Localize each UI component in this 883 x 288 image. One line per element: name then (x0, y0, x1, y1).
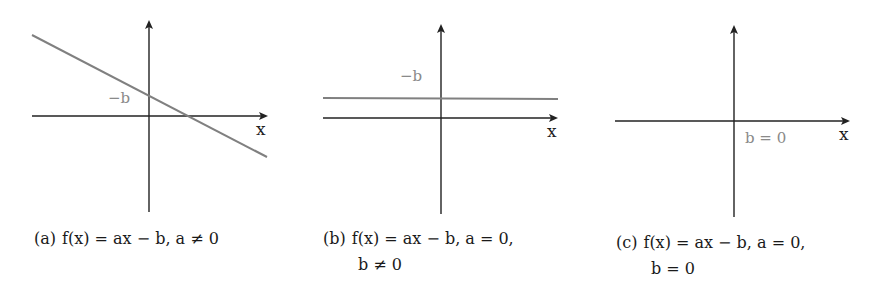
panel-a-x-axis-label: x (256, 119, 266, 139)
panel-c-caption: (c)f(x) = ax − b, a = 0, b = 0 (616, 230, 805, 282)
panel-b-caption-line1: f(x) = ax − b, a = 0, (352, 229, 514, 248)
panel-b-caption-line2: b ≠ 0 (323, 252, 514, 278)
panel-a-intercept-label: −b (108, 89, 130, 107)
panel-c-plot: b = 0 x (615, 25, 850, 217)
panel-c-tag: (c) (616, 233, 637, 252)
panel-b-caption: (b)f(x) = ax − b, a = 0, b ≠ 0 (323, 226, 514, 278)
panel-b-plot: −b x (323, 24, 558, 214)
panel-c-caption-line1: f(x) = ax − b, a = 0, (643, 233, 805, 252)
panel-b-tag: (b) (323, 229, 346, 248)
panel-a-plot: −b x (32, 20, 268, 212)
panel-c-intercept-label: b = 0 (745, 129, 786, 147)
panel-a-tag: (a) (34, 229, 56, 248)
panel-b-x-axis-label: x (547, 121, 557, 141)
panel-b-intercept-label: −b (400, 67, 422, 85)
panel-c-x-axis-label: x (839, 124, 849, 144)
panel-b-function-line (323, 98, 558, 99)
panel-a-caption: (a)f(x) = ax − b, a ≠ 0 (34, 226, 219, 252)
panel-a-caption-line1: f(x) = ax − b, a ≠ 0 (62, 229, 219, 248)
panel-c-caption-line2: b = 0 (616, 256, 805, 282)
